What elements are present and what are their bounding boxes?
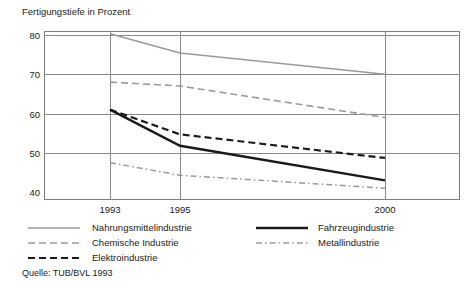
series-line bbox=[110, 34, 385, 74]
legend-item: Fahrzeugindustrie bbox=[256, 222, 394, 233]
legend-line-sample bbox=[256, 238, 308, 248]
series-line bbox=[110, 82, 385, 117]
series-line bbox=[110, 163, 385, 189]
y-axis-tick-label: 50 bbox=[0, 147, 40, 158]
legend-item-label: Chemische Industrie bbox=[92, 237, 179, 248]
legend-item-label: Nahrungsmittelindustrie bbox=[92, 222, 192, 233]
y-axis-tick-label: 40 bbox=[0, 187, 40, 198]
legend-item-label: Metallindustrie bbox=[318, 237, 379, 248]
legend-line-sample bbox=[256, 223, 308, 233]
legend-item: Metallindustrie bbox=[256, 237, 379, 248]
chart-legend: NahrungsmittelindustrieChemische Industr… bbox=[0, 222, 473, 264]
chart-container: Fertigungstiefe in Prozent 4050607080 19… bbox=[0, 0, 473, 283]
y-axis-tick-label: 60 bbox=[0, 108, 40, 119]
series-line bbox=[110, 110, 385, 158]
legend-item: Elektroindustrie bbox=[28, 252, 157, 263]
series-lines bbox=[44, 31, 460, 200]
x-axis-tick-label: 1995 bbox=[169, 204, 190, 215]
legend-item: Nahrungsmittelindustrie bbox=[28, 222, 192, 233]
x-axis-tick-label: 2000 bbox=[374, 204, 395, 215]
legend-item-label: Elektroindustrie bbox=[92, 252, 157, 263]
y-axis: 4050607080 bbox=[0, 31, 40, 200]
legend-item-label: Fahrzeugindustrie bbox=[318, 222, 394, 233]
legend-line-sample bbox=[28, 223, 80, 233]
plot-area bbox=[44, 31, 460, 200]
legend-item: Chemische Industrie bbox=[28, 237, 179, 248]
source-note: Quelle: TUB/BVL 1993 bbox=[22, 268, 113, 278]
x-axis-tick-label: 1993 bbox=[99, 204, 120, 215]
chart-title: Fertigungstiefe in Prozent bbox=[22, 6, 130, 17]
y-axis-tick-label: 70 bbox=[0, 69, 40, 80]
legend-line-sample bbox=[28, 253, 80, 263]
legend-line-sample bbox=[28, 238, 80, 248]
x-axis: 199319952000 bbox=[0, 202, 473, 218]
y-axis-tick-label: 80 bbox=[0, 29, 40, 40]
